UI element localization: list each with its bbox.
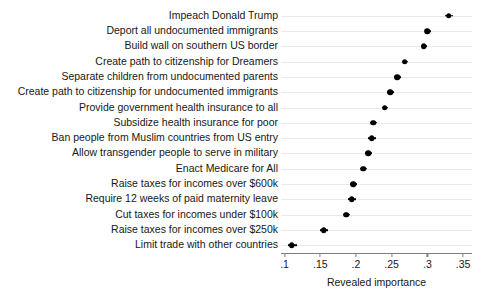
gridline bbox=[281, 138, 472, 139]
data-point bbox=[360, 166, 366, 172]
x-axis-tick bbox=[284, 253, 285, 257]
gridline bbox=[281, 77, 472, 78]
x-axis-tick-label: .2 bbox=[352, 258, 361, 270]
category-label: Enact Medicare for All bbox=[176, 163, 278, 174]
category-label: Allow transgender people to serve in mil… bbox=[72, 147, 278, 158]
gridline bbox=[281, 31, 472, 32]
gridline bbox=[281, 46, 472, 47]
category-label: Limit trade with other countries bbox=[135, 239, 278, 250]
gridline bbox=[281, 199, 472, 200]
x-axis-line bbox=[281, 253, 472, 254]
data-point bbox=[343, 212, 349, 218]
gridline bbox=[281, 16, 472, 17]
gridline bbox=[281, 215, 472, 216]
category-label: Ban people from Muslim countries from US… bbox=[52, 132, 278, 143]
x-axis-tick-label: .35 bbox=[456, 258, 471, 270]
data-point bbox=[350, 181, 356, 187]
data-point bbox=[370, 120, 376, 126]
category-label: Separate children from undocumented pare… bbox=[61, 71, 278, 82]
gridline bbox=[281, 153, 472, 154]
data-point bbox=[425, 28, 431, 34]
gridline bbox=[281, 62, 472, 63]
data-point bbox=[446, 13, 452, 19]
category-label: Impeach Donald Trump bbox=[169, 10, 278, 21]
category-labels: Impeach Donald TrumpDeport all undocumen… bbox=[0, 8, 278, 253]
x-axis-tick-label: .25 bbox=[384, 258, 399, 270]
data-point bbox=[349, 197, 355, 203]
gridline bbox=[281, 169, 472, 170]
x-axis-tick-label: .3 bbox=[423, 258, 432, 270]
x-axis-tick bbox=[355, 253, 356, 257]
category-label: Require 12 weeks of paid maternity leave bbox=[85, 193, 278, 204]
x-axis-title: Revealed importance bbox=[281, 276, 472, 288]
category-label: Create path to citizenship for undocumen… bbox=[18, 86, 278, 97]
x-axis-tick bbox=[391, 253, 392, 257]
gridline bbox=[281, 108, 472, 109]
category-label: Cut taxes for incomes under $100k bbox=[115, 209, 278, 220]
data-point bbox=[421, 43, 427, 49]
category-label: Create path to citizenship for Dreamers bbox=[95, 56, 278, 67]
category-label: Raise taxes for incomes over $600k bbox=[111, 178, 278, 189]
x-axis-tick bbox=[320, 253, 321, 257]
data-point bbox=[402, 59, 408, 65]
category-label: Build wall on southern US border bbox=[124, 40, 278, 51]
x-axis-tick-label: .15 bbox=[313, 258, 328, 270]
x-axis-tick-label: .1 bbox=[280, 258, 289, 270]
gridline bbox=[281, 245, 472, 246]
data-point bbox=[382, 105, 388, 111]
data-point bbox=[395, 74, 401, 80]
gridline bbox=[281, 230, 472, 231]
category-label: Subsidize health insurance for poor bbox=[113, 117, 278, 128]
revealed-importance-chart: Impeach Donald TrumpDeport all undocumen… bbox=[0, 0, 483, 303]
plot-area bbox=[281, 8, 472, 253]
data-point bbox=[321, 227, 327, 233]
data-point bbox=[387, 89, 393, 95]
category-label: Provide government health insurance to a… bbox=[79, 102, 278, 113]
category-label: Deport all undocumented immigrants bbox=[106, 25, 278, 36]
data-point bbox=[365, 151, 371, 157]
data-point bbox=[369, 135, 375, 141]
x-axis-tick bbox=[427, 253, 428, 257]
x-axis-tick bbox=[462, 253, 463, 257]
category-label: Raise taxes for incomes over $250k bbox=[111, 224, 278, 235]
gridline bbox=[281, 184, 472, 185]
data-point bbox=[289, 243, 295, 249]
gridline bbox=[281, 92, 472, 93]
